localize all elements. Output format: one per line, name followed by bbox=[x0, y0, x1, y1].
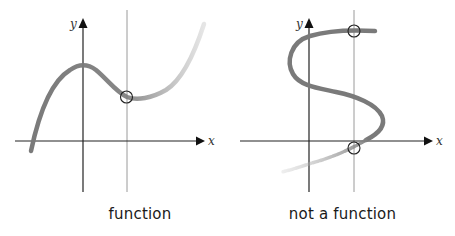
y-axis-label: y bbox=[69, 17, 77, 31]
y-axis-arrow-icon bbox=[79, 18, 88, 28]
y-axis-arrow-icon bbox=[305, 18, 314, 28]
caption-not-a-function: not a function bbox=[240, 205, 445, 223]
x-axis-arrow-icon bbox=[424, 137, 433, 146]
s-curve-upper bbox=[290, 31, 383, 140]
y-axis-label: y bbox=[295, 17, 303, 31]
s-curve-lower-tail bbox=[282, 140, 366, 172]
function-curve bbox=[31, 24, 204, 151]
x-axis-arrow-icon bbox=[196, 137, 205, 146]
caption-function: function bbox=[50, 205, 230, 223]
non-function-graph-panel: x y bbox=[240, 10, 443, 192]
x-axis-label: x bbox=[208, 134, 215, 148]
function-graph-panel: x y bbox=[15, 10, 215, 192]
x-axis-label: x bbox=[436, 134, 443, 148]
vertical-line-test-diagram: x y x y bbox=[0, 0, 455, 236]
y-axis: y bbox=[69, 17, 88, 192]
x-axis: x bbox=[15, 134, 215, 148]
x-axis: x bbox=[240, 134, 443, 148]
